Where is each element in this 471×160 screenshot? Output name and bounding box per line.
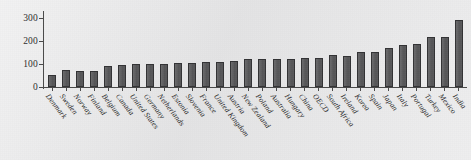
bar-slot — [438, 13, 452, 87]
x-label-slot: Austria — [227, 91, 241, 157]
x-label-slot: Netherlands — [157, 91, 171, 157]
bar — [132, 64, 140, 87]
x-label-slot: Ireland — [340, 91, 354, 157]
x-label-slot: Turkey — [424, 91, 438, 157]
bar-slot — [45, 13, 59, 87]
y-axis-tick-label: 200 — [4, 36, 38, 46]
bar-slot — [326, 13, 340, 87]
bar — [455, 20, 463, 87]
bar — [287, 59, 295, 87]
bar-slot — [396, 13, 410, 87]
x-label-slot: Korea — [354, 91, 368, 157]
x-label-slot: Finland — [87, 91, 101, 157]
x-label-slot: China — [298, 91, 312, 157]
x-label-slot: Portugal — [410, 91, 424, 157]
x-label-slot: Canada — [115, 91, 129, 157]
bar — [118, 65, 126, 87]
x-label-slot: Denmark — [45, 91, 59, 157]
bar — [371, 52, 379, 87]
x-label-slot: Sweden — [59, 91, 73, 157]
bar — [427, 37, 435, 87]
bar-slot — [312, 13, 326, 87]
bar-slot — [270, 13, 284, 87]
bar-slot — [354, 13, 368, 87]
y-axis-tick-mark — [39, 64, 44, 65]
x-label-slot: South Africa — [326, 91, 340, 157]
bar — [174, 63, 182, 87]
x-label-slot: Italy — [396, 91, 410, 157]
x-label-slot: Germany — [143, 91, 157, 157]
x-label-slot: OECD — [312, 91, 326, 157]
bar — [90, 71, 98, 87]
x-label-slot: Poland — [255, 91, 269, 157]
bar-slot — [410, 13, 424, 87]
bar-chart-figure: 0100200300 DenmarkSwedenNorwayFinlandBel… — [0, 0, 471, 160]
bar — [385, 48, 393, 87]
bar — [399, 45, 407, 87]
y-axis-tick-mark — [39, 18, 44, 19]
bar — [48, 75, 56, 87]
x-label-slot: Spain — [368, 91, 382, 157]
x-label-slot: Belgium — [101, 91, 115, 157]
x-axis-category-label: Italy — [395, 92, 411, 109]
bar-slot — [101, 13, 115, 87]
x-label-slot: Australia — [270, 91, 284, 157]
x-label-slot: Estonia — [171, 91, 185, 157]
x-label-slot: Slovenia — [185, 91, 199, 157]
bar-slot — [382, 13, 396, 87]
bar — [188, 63, 196, 88]
bar — [104, 66, 112, 87]
bar-slot — [87, 13, 101, 87]
y-axis-tick-label: 300 — [4, 13, 38, 23]
bar — [413, 44, 421, 87]
bar — [76, 71, 84, 87]
bar-slot — [157, 13, 171, 87]
x-label-slot: Norway — [73, 91, 87, 157]
bar — [301, 58, 309, 87]
bar — [244, 59, 252, 87]
bar-slot — [340, 13, 354, 87]
bar-slot — [368, 13, 382, 87]
x-label-slot: United States — [129, 91, 143, 157]
bar-slot — [424, 13, 438, 87]
bar-slot — [115, 13, 129, 87]
x-axis-category-label: India — [451, 92, 468, 111]
bar — [258, 59, 266, 87]
bar — [441, 37, 449, 87]
bar-slot — [59, 13, 73, 87]
bar-slot — [241, 13, 255, 87]
x-label-slot: Japan — [382, 91, 396, 157]
bar — [202, 62, 210, 87]
bar-series — [45, 13, 466, 87]
x-label-slot: United Kingdom — [213, 91, 227, 157]
bar-slot — [298, 13, 312, 87]
bar — [343, 56, 351, 87]
bar — [329, 55, 337, 87]
bar-slot — [129, 13, 143, 87]
bar-slot — [255, 13, 269, 87]
y-axis-tick-label: 100 — [4, 59, 38, 69]
y-axis-tick-label: 0 — [4, 82, 38, 92]
bar — [146, 64, 154, 87]
bar — [230, 61, 238, 87]
x-label-slot: Hungary — [284, 91, 298, 157]
bar-slot — [452, 13, 466, 87]
bar-slot — [199, 13, 213, 87]
x-label-slot: New Zealand — [241, 91, 255, 157]
y-axis-line — [43, 11, 44, 89]
bar-slot — [143, 13, 157, 87]
bar-slot — [73, 13, 87, 87]
bar — [160, 64, 168, 87]
bar-slot — [171, 13, 185, 87]
bar — [357, 52, 365, 87]
bar — [62, 70, 70, 87]
bar-slot — [185, 13, 199, 87]
x-label-slot: Mexico — [438, 91, 452, 157]
x-label-slot: France — [199, 91, 213, 157]
bar — [315, 58, 323, 87]
bar-slot — [213, 13, 227, 87]
bar — [216, 62, 224, 87]
y-axis-tick-mark — [39, 87, 44, 88]
bar-slot — [227, 13, 241, 87]
bar-slot — [284, 13, 298, 87]
